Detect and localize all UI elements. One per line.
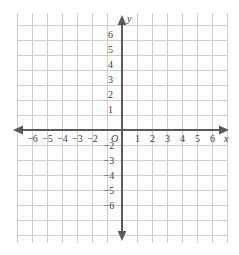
- x-tick-label-4: 4: [176, 134, 189, 144]
- coordinate-plane-figure: −6 −5 −4 −3 −2 1 2 3 4 5 6 6 5 4 3 2 1 −…: [0, 0, 239, 255]
- x-tick-label--2: −2: [86, 134, 99, 144]
- y-tick-label-6: 6: [104, 30, 117, 40]
- x-tick-label-1: 1: [131, 134, 144, 144]
- x-axis-left-arrowhead: [13, 126, 23, 135]
- y-tick-label-4: 4: [104, 60, 117, 70]
- x-axis-label: x: [224, 134, 228, 144]
- y-axis: [118, 15, 127, 241]
- x-tick-label--4: −4: [56, 134, 69, 144]
- origin-label: O: [111, 134, 118, 144]
- y-tick-label-5: 5: [104, 45, 117, 55]
- x-tick-label--6: −6: [26, 134, 39, 144]
- y-tick-label--5: −5: [101, 186, 117, 196]
- y-tick-label-3: 3: [104, 75, 117, 85]
- y-tick-label--3: −3: [101, 156, 117, 166]
- y-axis-bottom-arrowhead: [118, 231, 127, 241]
- coordinate-plane-svg: [0, 0, 239, 255]
- y-tick-label-2: 2: [104, 90, 117, 100]
- x-tick-label-3: 3: [161, 134, 174, 144]
- y-tick-label-1: 1: [104, 105, 117, 115]
- x-tick-label-6: 6: [206, 134, 219, 144]
- y-axis-label: y: [127, 14, 131, 24]
- x-tick-label--5: −5: [41, 134, 54, 144]
- x-tick-label-5: 5: [191, 134, 204, 144]
- y-tick-label--4: −4: [101, 171, 117, 181]
- y-axis-top-arrowhead: [118, 15, 127, 25]
- x-tick-label--3: −3: [71, 134, 84, 144]
- x-tick-label-2: 2: [146, 134, 159, 144]
- y-tick-label--6: −6: [101, 201, 117, 211]
